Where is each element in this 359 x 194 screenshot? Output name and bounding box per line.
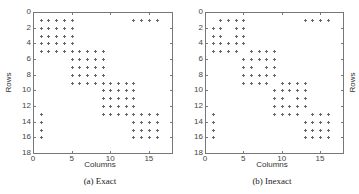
x-tick-label: 15 <box>314 155 326 163</box>
data-point <box>148 113 151 116</box>
data-point <box>132 113 135 116</box>
data-point <box>148 19 151 22</box>
y-tick <box>341 137 344 138</box>
y-tick <box>33 43 36 44</box>
data-point <box>132 19 135 22</box>
data-point <box>250 74 253 77</box>
y-tick-label: 8 <box>19 71 31 79</box>
y-tick <box>341 75 344 76</box>
data-point <box>40 136 43 139</box>
data-point <box>273 97 276 100</box>
data-point <box>219 50 222 53</box>
y-tick <box>33 75 36 76</box>
data-point <box>94 74 97 77</box>
y-tick-label: 0 <box>191 8 203 16</box>
data-point <box>132 121 135 124</box>
y-tick-label: 2 <box>191 24 203 32</box>
data-point <box>304 89 307 92</box>
data-point <box>258 58 261 61</box>
data-point <box>94 66 97 69</box>
y-tick-label: 18 <box>19 149 31 157</box>
caption-inexact: (b) Inexact <box>242 176 302 186</box>
data-point <box>273 105 276 108</box>
data-point <box>281 113 284 116</box>
y-tick <box>33 153 36 154</box>
data-point <box>304 121 307 124</box>
data-point <box>327 113 330 116</box>
data-point <box>102 58 105 61</box>
x-tick-label: 15 <box>143 155 155 163</box>
data-point <box>258 82 261 85</box>
data-point <box>40 113 43 116</box>
data-point <box>250 82 253 85</box>
data-point <box>109 113 112 116</box>
y-tick <box>170 137 173 138</box>
y-tick <box>170 12 173 13</box>
data-point <box>71 58 74 61</box>
data-point <box>296 82 299 85</box>
data-point <box>55 42 58 45</box>
y-tick-label: 2 <box>19 24 31 32</box>
data-point <box>40 35 43 38</box>
data-point <box>63 35 66 38</box>
y-tick <box>170 59 173 60</box>
data-point <box>235 35 238 38</box>
y-tick <box>170 153 173 154</box>
data-point <box>71 82 74 85</box>
data-point <box>319 129 322 132</box>
data-point <box>327 19 330 22</box>
data-point <box>311 113 314 116</box>
data-point <box>235 50 238 53</box>
data-point <box>296 105 299 108</box>
data-point <box>212 42 215 45</box>
data-point <box>250 66 253 69</box>
y-tick <box>170 90 173 91</box>
y-axis-label: Rows <box>4 72 13 92</box>
y-tick-label: 14 <box>191 118 203 126</box>
data-point <box>156 129 159 132</box>
data-point <box>40 19 43 22</box>
data-point <box>40 121 43 124</box>
x-tick <box>110 12 111 15</box>
data-point <box>102 113 105 116</box>
data-point <box>265 82 268 85</box>
data-point <box>140 121 143 124</box>
x-tick <box>282 12 283 15</box>
data-point <box>242 27 245 30</box>
y-tick <box>170 75 173 76</box>
y-tick <box>205 75 208 76</box>
x-tick <box>149 12 150 15</box>
data-point <box>288 113 291 116</box>
data-point <box>94 82 97 85</box>
data-point <box>327 121 330 124</box>
data-point <box>125 105 128 108</box>
data-point <box>117 113 120 116</box>
data-point <box>319 136 322 139</box>
y-tick <box>205 28 208 29</box>
data-point <box>235 27 238 30</box>
data-point <box>212 27 215 30</box>
data-point <box>212 121 215 124</box>
data-point <box>102 74 105 77</box>
data-point <box>242 66 245 69</box>
y-tick <box>341 43 344 44</box>
y-tick-label: 16 <box>19 133 31 141</box>
data-point <box>288 82 291 85</box>
data-point <box>319 121 322 124</box>
data-point <box>219 27 222 30</box>
x-tick-label: 10 <box>104 155 116 163</box>
data-point <box>148 129 151 132</box>
y-tick <box>341 12 344 13</box>
data-point <box>304 105 307 108</box>
data-point <box>47 35 50 38</box>
y-tick <box>205 12 208 13</box>
data-point <box>55 27 58 30</box>
data-point <box>250 58 253 61</box>
data-point <box>109 89 112 92</box>
plot-frame <box>205 12 344 154</box>
caption-exact: (a) Exact <box>70 176 130 186</box>
data-point <box>227 50 230 53</box>
data-point <box>71 35 74 38</box>
data-point <box>140 129 143 132</box>
data-point <box>288 89 291 92</box>
